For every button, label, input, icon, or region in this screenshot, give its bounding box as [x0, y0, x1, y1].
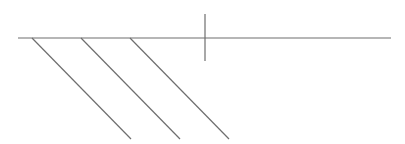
diagonal-hatch-line: [81, 38, 180, 139]
diagonal-hatch-group: [32, 38, 229, 139]
diagonal-hatch-line: [130, 38, 229, 139]
line-diagram: [0, 0, 405, 144]
diagonal-hatch-line: [32, 38, 131, 139]
